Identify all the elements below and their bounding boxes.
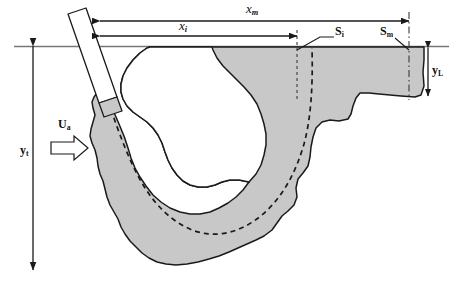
diagram-canvas	[0, 0, 453, 284]
label-y-total: yt	[20, 144, 29, 158]
label-y-layer: yL	[432, 64, 443, 78]
label-u-ambient: Ua	[58, 118, 71, 132]
label-s-impact: Si	[335, 25, 344, 39]
flow-arrow-icon	[51, 136, 88, 160]
label-x-max: xm	[246, 2, 258, 18]
label-x-impact: xi	[179, 19, 187, 35]
label-s-max: Sm	[380, 25, 393, 39]
figure-container: xm xi Si Sm yL yt Ua	[0, 0, 453, 284]
